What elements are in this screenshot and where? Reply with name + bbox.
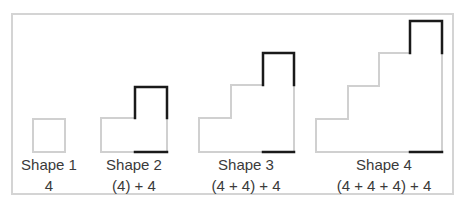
- shape-4-expression: (4 + 4 + 4) + 4: [314, 177, 454, 195]
- shape-4-name: Shape 4: [314, 156, 454, 174]
- shape-3: [199, 53, 294, 152]
- shape-1: [33, 119, 65, 152]
- shape-4: [316, 21, 442, 152]
- shape-3-name: Shape 3: [176, 156, 316, 174]
- shape-2: [101, 87, 167, 152]
- shape-3-expression: (4 + 4) + 4: [176, 177, 316, 195]
- staircase-shapes: [0, 0, 463, 205]
